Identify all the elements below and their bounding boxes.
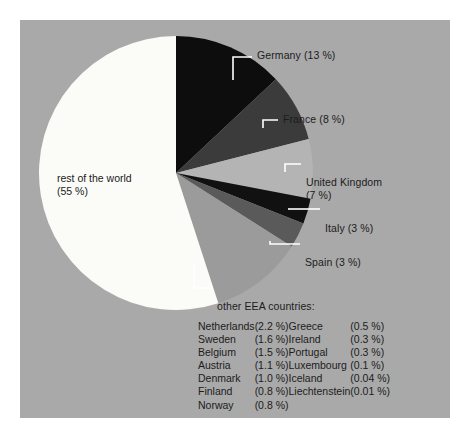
callout-france: France (8 %) (283, 113, 345, 126)
legend-value-left: (1.5 %) (255, 346, 289, 359)
callout-italy: Italy (3 %) (325, 222, 373, 235)
table-row: Sweden (1.6 %) Ireland (0.3 %) (198, 333, 390, 346)
callout-rest-of-world-line1: rest of the world (57, 172, 177, 185)
legend-value-right: (0.3 %) (350, 333, 390, 346)
legend-country-left: Belgium (198, 346, 255, 359)
callout-germany: Germany (13 %) (257, 49, 335, 62)
callout-united-kingdom: United Kingdom (7 %) (306, 176, 382, 201)
legend-country-right: Luxembourg (288, 359, 350, 372)
table-row: Austria (1.1 %) Luxembourg (0.1 %) (198, 359, 390, 372)
other-eea-legend-table: Netherlands (2.2 %) Greece (0.5 %) Swede… (198, 320, 390, 412)
legend-value-right: (0.04 %) (350, 372, 390, 385)
legend-value-left: (1.0 %) (255, 372, 289, 385)
legend-value-left: (0.8 %) (255, 399, 289, 412)
legend-value-right: (0.3 %) (350, 346, 390, 359)
legend-country-left: Norway (198, 399, 255, 412)
legend-country-right: Greece (288, 320, 350, 333)
legend-country-left: Austria (198, 359, 255, 372)
chart-panel: rest of the world (55 %) Germany (13 %) … (20, 20, 450, 418)
callout-united-kingdom-line2: (7 %) (306, 189, 382, 202)
table-row: Belgium (1.5 %) Portugal (0.3 %) (198, 346, 390, 359)
callout-rest-of-world: rest of the world (55 %) (57, 172, 177, 197)
legend-value-left: (2.2 %) (255, 320, 289, 333)
legend-country-right: Liechtenstein (288, 385, 350, 398)
legend-value-right: (0.01 %) (350, 385, 390, 398)
legend-country-left: Sweden (198, 333, 255, 346)
legend-value-right: (0.1 %) (350, 359, 390, 372)
legend-value-right: (0.5 %) (350, 320, 390, 333)
legend-value-left: (1.6 %) (255, 333, 289, 346)
legend-country-left: Denmark (198, 372, 255, 385)
legend-country-left: Netherlands (198, 320, 255, 333)
callout-rest-of-world-line2: (55 %) (57, 185, 177, 198)
callout-other-eea-countries: other EEA countries: (217, 300, 315, 313)
callout-united-kingdom-line1: United Kingdom (306, 176, 382, 189)
legend-country-left: Finland (198, 385, 255, 398)
legend-value-right (350, 399, 390, 412)
legend-country-right (288, 399, 350, 412)
table-row: Denmark (1.0 %) Iceland (0.04 %) (198, 372, 390, 385)
other-eea-legend-body: Netherlands (2.2 %) Greece (0.5 %) Swede… (198, 320, 390, 412)
legend-value-left: (0.8 %) (255, 385, 289, 398)
legend-country-right: Portugal (288, 346, 350, 359)
table-row: Netherlands (2.2 %) Greece (0.5 %) (198, 320, 390, 333)
legend-value-left: (1.1 %) (255, 359, 289, 372)
table-row: Finland (0.8 %) Liechtenstein (0.01 %) (198, 385, 390, 398)
callout-spain: Spain (3 %) (305, 256, 361, 269)
other-eea-legend: Netherlands (2.2 %) Greece (0.5 %) Swede… (198, 320, 448, 412)
table-row: Norway (0.8 %) (198, 399, 390, 412)
pie-chart-figure: rest of the world (55 %) Germany (13 %) … (0, 0, 466, 433)
legend-country-right: Iceland (288, 372, 350, 385)
legend-country-right: Ireland (288, 333, 350, 346)
